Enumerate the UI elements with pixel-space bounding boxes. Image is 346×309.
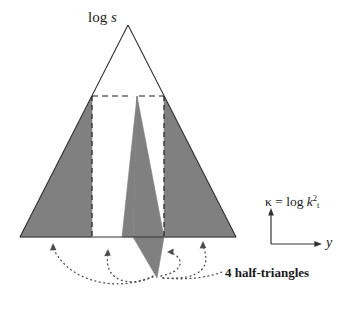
dotted-arc-inner-right: [161, 253, 180, 276]
axis-horizontal-arrowhead: [314, 241, 322, 247]
half-triangles-annotation: 4 half-triangles: [225, 266, 309, 279]
log-s-label: log s: [88, 10, 117, 25]
center-right-sliver: [133, 96, 164, 278]
arc-arrowhead-outer-right: [200, 241, 207, 248]
arc-arrowhead-outer-left: [50, 243, 56, 251]
figure-canvas: [0, 0, 346, 309]
log-s-variable: s: [111, 9, 117, 25]
horizontal-axis-label: y: [326, 236, 332, 250]
vertical-axis-label: κ = log k2t: [265, 194, 319, 210]
log-s-prefix: log: [88, 9, 111, 25]
dotted-arc-outer-left: [53, 248, 153, 284]
arc-arrowhead-inner-right: [167, 248, 174, 255]
kappa-subscript: t: [317, 200, 319, 210]
kappa-symbol: κ: [265, 194, 272, 209]
kappa-equals: = log: [272, 194, 307, 209]
figure-root: log s κ = log k2t y 4 half-triangles: [0, 0, 346, 309]
arc-arrowhead-inner-left: [104, 249, 111, 256]
